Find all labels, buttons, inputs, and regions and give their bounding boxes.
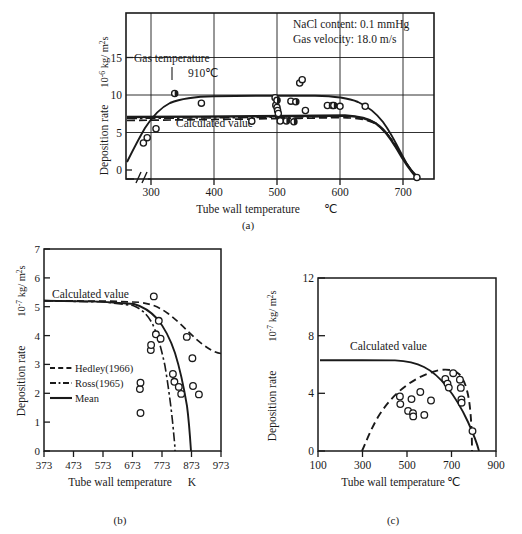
svg-text:7: 7 — [35, 243, 41, 255]
panel-b-legend-label-hedley: Hedley(1966) — [75, 363, 134, 375]
panel-a-caption: (a) — [242, 219, 255, 232]
svg-text:8: 8 — [308, 330, 314, 342]
panel-b-y-axis-unit: 10-7 kg/ m2s — [15, 265, 27, 316]
panel-b-curve-ross-dashdot — [44, 301, 175, 451]
svg-text:400: 400 — [205, 186, 223, 198]
panel-a-y-tick-labels: 0 5 10 15 — [111, 52, 123, 177]
svg-text:500: 500 — [268, 186, 286, 198]
panel-c-y-ticks — [318, 278, 325, 451]
svg-text:6: 6 — [35, 272, 41, 284]
panel-b-legend: Hedley(1966) Ross(1965) Mean — [50, 363, 134, 404]
panel-c-x-axis-label: Tube wall temperature — [341, 476, 445, 489]
svg-text:4: 4 — [35, 330, 41, 342]
panel-c-caption: (c) — [387, 514, 400, 527]
panel-c-x-tick-labels: 100 300 500 700 900 — [309, 459, 505, 471]
panel-c-y-tick-labels: 0 4 8 12 — [303, 272, 315, 457]
svg-text:10: 10 — [111, 89, 123, 101]
svg-text:673: 673 — [124, 459, 141, 471]
svg-text:0: 0 — [35, 445, 41, 457]
panel-b-legend-item-mean: Mean — [50, 393, 100, 404]
panel-b-y-tick-labels: 0 1 2 3 4 5 6 7 — [35, 243, 41, 457]
svg-text:900: 900 — [487, 459, 505, 471]
panel-a-curve-hedley-dashed — [127, 118, 418, 178]
svg-text:3: 3 — [35, 358, 41, 370]
panel-b-x-tick-labels: 373 473 573 673 773 873 973 — [36, 459, 230, 471]
panel-b-x-axis-unit: K — [188, 476, 197, 488]
panel-c-y-axis-label: Deposition rate — [266, 371, 279, 442]
panel-b: 10-7 kg/ m2s Deposition rate 0 1 2 3 — [0, 236, 250, 534]
svg-text:0: 0 — [116, 164, 122, 176]
svg-text:473: 473 — [65, 459, 82, 471]
panel-b-caption: (b) — [114, 514, 127, 527]
panel-b-x-axis-label: Tube wall temperature — [68, 476, 172, 489]
panel-a-x-axis-unit: ℃ — [324, 203, 337, 215]
panel-b-plot-frame — [44, 249, 221, 451]
svg-text:2: 2 — [35, 387, 41, 399]
svg-text:1: 1 — [35, 416, 41, 428]
panel-c-x-ticks — [318, 451, 496, 457]
panel-b-curve-mean-solid — [44, 301, 191, 451]
svg-text:Deposition rate: Deposition rate — [266, 371, 279, 442]
svg-text:5: 5 — [116, 127, 122, 139]
panel-a-svg: 10-6 kg/ m2s Deposition rate 0 5 10 15 — [0, 0, 522, 232]
svg-text:700: 700 — [394, 186, 412, 198]
svg-text:500: 500 — [398, 459, 416, 471]
panel-b-y-ticks — [44, 249, 50, 451]
panel-a-gas-temperature-label: Gas temperature — [134, 52, 210, 65]
panel-a-annotation-velocity: Gas velocity: 18.0 m/s — [293, 33, 397, 46]
panel-a-annotation-nacl: NaCl content: 0.1 mmHg — [293, 18, 410, 31]
panel-a-y-axis-unit: 10-6 kg/ m2s — [98, 36, 110, 87]
svg-text:Deposition rate: Deposition rate — [98, 105, 111, 176]
panel-b-legend-label-ross: Ross(1965) — [75, 378, 124, 390]
panel-b-x-ticks — [44, 451, 221, 457]
svg-text:10-7 kg/ m2s: 10-7 kg/ m2s — [266, 290, 278, 341]
panel-c: 10-7 kg/ m2s Deposition rate 0 4 8 12 — [250, 236, 522, 534]
panel-b-y-axis-label: Deposition rate — [15, 346, 28, 417]
panel-c-x-axis-unit: ℃ — [447, 476, 460, 488]
svg-text:100: 100 — [309, 459, 327, 471]
panel-a-gas-temperature-value: 910℃ — [188, 67, 218, 79]
svg-text:700: 700 — [443, 459, 461, 471]
svg-text:5: 5 — [35, 301, 41, 313]
svg-text:4: 4 — [308, 387, 314, 399]
panel-a-x-tick-labels: 300 400 500 600 700 — [142, 186, 412, 198]
svg-text:0: 0 — [308, 445, 314, 457]
panel-c-y-axis-unit: 10-7 kg/ m2s — [266, 290, 278, 341]
svg-text:373: 373 — [36, 459, 53, 471]
panel-b-legend-item-hedley: Hedley(1966) — [50, 363, 134, 375]
svg-text:600: 600 — [331, 186, 349, 198]
svg-text:10-6 kg/ m2s: 10-6 kg/ m2s — [98, 36, 110, 87]
svg-text:Deposition rate: Deposition rate — [15, 346, 28, 417]
panel-b-legend-label-mean: Mean — [75, 393, 100, 404]
panel-a-y-axis-label: Deposition rate — [98, 105, 111, 176]
panel-b-curve-hedley-dashed — [44, 301, 221, 354]
panel-a-curve-ross-dashdot — [127, 116, 418, 178]
panel-a: 10-6 kg/ m2s Deposition rate 0 5 10 15 — [0, 0, 522, 232]
panel-a-curve-mean-solid — [127, 116, 417, 179]
panel-c-svg: 10-7 kg/ m2s Deposition rate 0 4 8 12 — [250, 236, 522, 534]
svg-text:10-7 kg/ m2s: 10-7 kg/ m2s — [15, 265, 27, 316]
svg-text:573: 573 — [95, 459, 112, 471]
panel-b-svg: 10-7 kg/ m2s Deposition rate 0 1 2 3 — [0, 236, 250, 534]
panel-b-legend-item-ross: Ross(1965) — [50, 378, 124, 390]
svg-text:15: 15 — [111, 52, 123, 64]
panel-b-calculated-value-label: Calculated value — [52, 288, 129, 300]
svg-text:773: 773 — [154, 459, 171, 471]
svg-text:973: 973 — [213, 459, 230, 471]
svg-text:300: 300 — [142, 186, 160, 198]
svg-text:873: 873 — [183, 459, 200, 471]
panel-a-x-axis-label: Tube wall temperature — [196, 203, 300, 216]
panel-a-axis-break-icon — [126, 172, 151, 183]
panel-c-calculated-value-label: Calculated value — [350, 340, 427, 352]
panel-a-x-ticks — [151, 179, 403, 185]
svg-text:300: 300 — [354, 459, 372, 471]
svg-text:12: 12 — [303, 272, 315, 284]
panel-c-curve-experimental-dashed — [362, 370, 472, 451]
